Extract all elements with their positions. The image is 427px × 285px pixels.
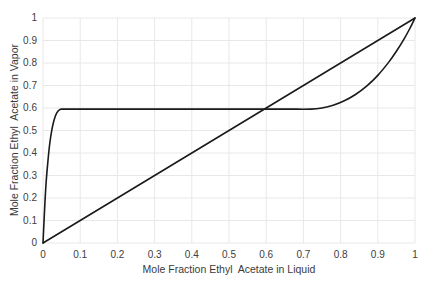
x-tick-label: 1 [412, 250, 418, 260]
y-tick-label: 0.6 [23, 103, 37, 113]
x-tick-label: 0.7 [296, 250, 310, 260]
x-tick-label: 0.9 [371, 250, 385, 260]
y-tick-label: 0.1 [23, 216, 37, 226]
y-tick-label: 0.4 [23, 148, 37, 158]
x-tick-label: 0.8 [334, 250, 348, 260]
plot-canvas [0, 0, 427, 285]
x-tick-label: 0.3 [148, 250, 162, 260]
y-tick-label: 1 [31, 13, 37, 23]
y-tick-label: 0.7 [23, 81, 37, 91]
x-tick-label: 0.2 [110, 250, 124, 260]
y-axis-title: Mole Fraction Ethyl Acetate in Vapor [8, 44, 20, 216]
y-tick-label: 0 [31, 238, 37, 248]
y-tick-label: 0.8 [23, 58, 37, 68]
x-axis-title: Mole Fraction Ethyl Acetate in Liquid [143, 263, 316, 275]
y-tick-label: 0.2 [23, 193, 37, 203]
x-tick-label: 0.6 [259, 250, 273, 260]
y-tick-label: 0.9 [23, 36, 37, 46]
x-tick-label: 0.5 [222, 250, 236, 260]
x-tick-label: 0.1 [73, 250, 87, 260]
y-tick-label: 0.5 [23, 126, 37, 136]
x-tick-label: 0 [40, 250, 46, 260]
x-tick-label: 0.4 [185, 250, 199, 260]
vle-chart-figure: 00.10.20.30.40.50.60.70.80.91 00.10.20.3… [0, 0, 427, 285]
y-tick-label: 0.3 [23, 171, 37, 181]
